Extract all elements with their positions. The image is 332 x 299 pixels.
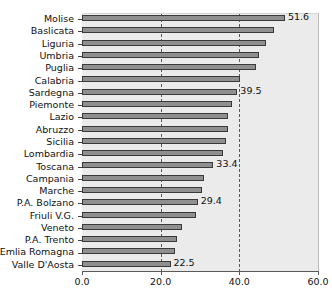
bar	[82, 40, 266, 46]
bar-row: 33.4	[82, 160, 318, 172]
category-tick	[78, 228, 82, 229]
x-axis-tick-label: 60.0	[298, 276, 332, 287]
bar-row	[82, 222, 318, 234]
category-label-valle-d-aosta: Valle D'Aosta	[0, 259, 78, 271]
category-tick	[78, 240, 82, 241]
bar	[82, 101, 232, 107]
bar	[82, 64, 256, 70]
category-label-text: Friuli V.G.	[30, 211, 74, 221]
bar-row: 29.4	[82, 197, 318, 209]
bar	[82, 248, 175, 254]
category-tick	[78, 93, 82, 94]
bar-row	[82, 136, 318, 148]
bar-row: 39.5	[82, 87, 318, 99]
bar-row	[82, 50, 318, 62]
category-label-text: Marche	[39, 186, 74, 196]
category-label-text: Veneto	[41, 223, 74, 233]
bar	[82, 224, 182, 230]
category-label-abruzzo: Abruzzo	[0, 124, 78, 136]
category-label-text: Valle D'Aosta	[12, 260, 74, 270]
bar-row: 51.6	[82, 13, 318, 25]
bar	[82, 76, 240, 82]
bar-row	[82, 62, 318, 74]
category-label-text: Liguria	[42, 39, 74, 49]
category-tick	[78, 191, 82, 192]
bar	[82, 52, 259, 58]
bar	[82, 138, 226, 144]
category-label-puglia: Puglia	[0, 62, 78, 74]
bar	[82, 150, 223, 156]
category-label-p-a-bolzano: P.A. Bolzano	[0, 197, 78, 209]
category-label-calabria: Calabria	[0, 74, 78, 86]
bar	[82, 187, 202, 193]
category-label-campania: Campania	[0, 173, 78, 185]
category-label-friuli-v-g: Friuli V.G.	[0, 210, 78, 222]
category-label-liguria: Liguria	[0, 38, 78, 50]
x-axis-line	[82, 271, 319, 272]
bar-row	[82, 210, 318, 222]
category-label-text: Sicilia	[46, 137, 74, 147]
bar-row	[82, 173, 318, 185]
category-tick	[78, 203, 82, 204]
category-tick	[78, 265, 82, 266]
category-tick	[78, 167, 82, 168]
category-axis-labels: MoliseBaslicataLiguriaUmbriaPugliaCalabr…	[0, 13, 78, 271]
category-label-emlia-romagna: Emlia Romagna	[0, 246, 78, 258]
category-label-text: Umbria	[39, 51, 74, 61]
bar	[82, 236, 177, 242]
category-label-text: Abruzzo	[36, 125, 74, 135]
category-label-text: P.A. Bolzano	[17, 198, 74, 208]
x-axis-tick-label: 0.0	[62, 276, 102, 287]
bar-row	[82, 234, 318, 246]
bar-value-label: 29.4	[201, 195, 222, 206]
x-axis-tick	[318, 271, 319, 275]
category-tick	[78, 130, 82, 131]
bar	[82, 175, 204, 181]
category-label-marche: Marche	[0, 185, 78, 197]
category-label-sicilia: Sicilia	[0, 136, 78, 148]
bar	[82, 212, 196, 218]
category-label-veneto: Veneto	[0, 222, 78, 234]
category-label-text: Lazio	[49, 112, 74, 122]
category-label-text: Campania	[26, 174, 74, 184]
bar	[82, 261, 171, 267]
category-tick	[78, 44, 82, 45]
x-axis-tick-label: 20.0	[141, 276, 181, 287]
category-label-piemonte: Piemonte	[0, 99, 78, 111]
bar-value-label: 22.5	[174, 257, 195, 268]
category-tick	[78, 68, 82, 69]
bar-row	[82, 124, 318, 136]
bar	[82, 89, 237, 95]
bar-row	[82, 38, 318, 50]
category-label-umbria: Umbria	[0, 50, 78, 62]
bars-container: 51.639.533.429.422.5	[82, 13, 318, 271]
category-label-toscana: Toscana	[0, 160, 78, 172]
category-label-text: Molise	[44, 14, 74, 24]
category-label-text: Lombardia	[24, 149, 74, 159]
category-tick	[78, 142, 82, 143]
category-label-baslicata: Baslicata	[0, 25, 78, 37]
category-label-text: Calabria	[35, 76, 74, 86]
bar-value-label: 39.5	[240, 85, 261, 96]
category-tick	[78, 216, 82, 217]
category-label-molise: Molise	[0, 13, 78, 25]
category-label-lazio: Lazio	[0, 111, 78, 123]
category-tick	[78, 117, 82, 118]
x-axis-tick	[82, 271, 83, 275]
bar-row	[82, 74, 318, 86]
category-tick	[78, 105, 82, 106]
bar-row	[82, 111, 318, 123]
bar	[82, 126, 228, 132]
category-tick	[78, 19, 82, 20]
bar-row: 22.5	[82, 259, 318, 271]
bar	[82, 113, 228, 119]
x-axis-tick	[161, 271, 162, 275]
category-label-text: Toscana	[36, 162, 74, 172]
category-label-sardegna: Sardegna	[0, 87, 78, 99]
bar-row	[82, 148, 318, 160]
category-tick	[78, 81, 82, 82]
category-label-text: Piemonte	[29, 100, 74, 110]
category-label-text: Puglia	[45, 63, 74, 73]
bar-value-label: 33.4	[216, 158, 237, 169]
bar-value-label: 51.6	[288, 11, 309, 22]
